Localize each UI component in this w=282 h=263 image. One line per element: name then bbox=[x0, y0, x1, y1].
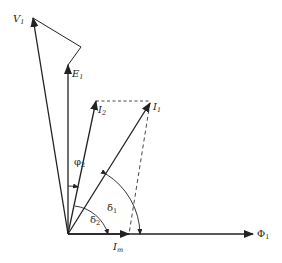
angle-arc-phi2 bbox=[68, 186, 78, 187]
label-e1: E1 bbox=[71, 68, 83, 81]
dashed-line-i1-im bbox=[129, 103, 150, 234]
label-i2: I2 bbox=[97, 104, 106, 117]
label-v1: V1 bbox=[13, 13, 24, 26]
voltage-drop-lines bbox=[33, 18, 81, 65]
phasor-diagram: V1 E1 I2 I1 Im Φ1 φ2 δ1 δ2 bbox=[0, 0, 282, 263]
vector-v1 bbox=[33, 18, 68, 234]
label-delta2: δ2 bbox=[90, 214, 100, 227]
label-delta1: δ1 bbox=[107, 202, 117, 215]
label-i1: I1 bbox=[152, 101, 161, 114]
label-im: Im bbox=[112, 241, 123, 254]
label-phi1: Φ1 bbox=[257, 228, 269, 241]
